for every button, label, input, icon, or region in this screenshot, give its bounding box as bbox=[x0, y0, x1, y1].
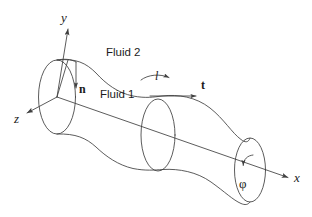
fluid-1-label: Fluid 1 bbox=[100, 89, 135, 101]
phi-angle-label: φ bbox=[239, 177, 247, 190]
diagram-svg bbox=[0, 0, 312, 217]
figure-canvas: y z x n t l Fluid 2 Fluid 1 φ bbox=[0, 0, 312, 217]
normal-vector-label: n bbox=[79, 83, 86, 95]
y-axis-label: y bbox=[61, 11, 67, 24]
z-axis-label: z bbox=[14, 112, 19, 125]
arclength-label: l bbox=[155, 70, 158, 82]
tangent-vector-label: t bbox=[201, 79, 205, 91]
y-axis-line bbox=[57, 29, 68, 97]
x-axis-label: x bbox=[294, 171, 300, 184]
tube-upper-profile bbox=[57, 60, 250, 142]
fluid-2-label: Fluid 2 bbox=[106, 47, 141, 59]
throat-cross-section bbox=[141, 99, 175, 171]
outlet-cross-section bbox=[235, 138, 266, 202]
tube-lower-profile bbox=[57, 134, 250, 205]
x-axis-line bbox=[57, 97, 288, 178]
z-axis-line bbox=[27, 97, 57, 113]
